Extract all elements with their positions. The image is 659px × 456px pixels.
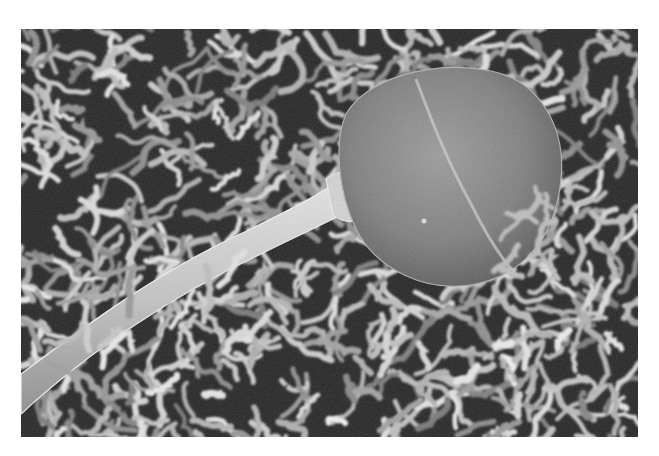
film-grain (21, 29, 638, 437)
micrograph-scene (21, 29, 638, 437)
micrograph-photo (21, 29, 638, 437)
